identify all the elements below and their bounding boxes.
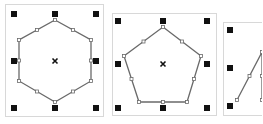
vertex-node-icon[interactable]	[261, 99, 263, 102]
vertex-node-icon[interactable]	[54, 101, 57, 104]
resize-handle-icon[interactable]	[115, 61, 121, 67]
midpoint-node-icon[interactable]	[248, 75, 251, 78]
resize-handle-icon[interactable]	[227, 65, 233, 71]
midpoint-node-icon[interactable]	[90, 59, 93, 62]
midpoint-node-icon[interactable]	[36, 29, 39, 32]
midpoint-node-icon[interactable]	[142, 40, 145, 43]
resize-handle-icon[interactable]	[11, 105, 17, 111]
midpoint-node-icon[interactable]	[193, 78, 196, 81]
shape-canvas	[0, 0, 262, 124]
midpoint-node-icon[interactable]	[36, 90, 39, 93]
vertex-node-icon[interactable]	[261, 51, 263, 54]
resize-handle-icon[interactable]	[115, 18, 121, 24]
vertex-node-icon[interactable]	[18, 80, 21, 83]
midpoint-node-icon[interactable]	[72, 90, 75, 93]
vertex-node-icon[interactable]	[123, 55, 126, 58]
resize-handle-icon[interactable]	[52, 11, 58, 17]
vertex-node-icon[interactable]	[90, 39, 93, 42]
midpoint-node-icon[interactable]	[18, 59, 21, 62]
resize-handle-icon[interactable]	[204, 61, 210, 67]
midpoint-node-icon[interactable]	[130, 78, 133, 81]
resize-handle-icon[interactable]	[160, 105, 166, 111]
midpoint-node-icon[interactable]	[181, 40, 184, 43]
resize-handle-icon[interactable]	[115, 105, 121, 111]
resize-handle-icon[interactable]	[227, 103, 233, 109]
resize-handle-icon[interactable]	[93, 58, 99, 64]
vertex-node-icon[interactable]	[236, 99, 239, 102]
resize-handle-icon[interactable]	[204, 18, 210, 24]
vertex-node-icon[interactable]	[18, 39, 21, 42]
vertex-node-icon[interactable]	[90, 80, 93, 83]
shape-overlay	[0, 0, 262, 124]
vertex-node-icon[interactable]	[186, 101, 189, 104]
resize-handle-icon[interactable]	[227, 27, 233, 33]
resize-handle-icon[interactable]	[204, 105, 210, 111]
vertex-node-icon[interactable]	[54, 19, 57, 22]
resize-handle-icon[interactable]	[11, 11, 17, 17]
resize-handle-icon[interactable]	[93, 11, 99, 17]
resize-handle-icon[interactable]	[93, 105, 99, 111]
center-x-icon[interactable]	[53, 59, 58, 64]
center-x-icon[interactable]	[161, 62, 166, 67]
vertex-node-icon[interactable]	[200, 55, 203, 58]
vertex-node-icon[interactable]	[138, 101, 141, 104]
vertex-node-icon[interactable]	[162, 26, 165, 29]
midpoint-node-icon[interactable]	[261, 75, 263, 78]
midpoint-node-icon[interactable]	[162, 101, 165, 104]
midpoint-node-icon[interactable]	[72, 29, 75, 32]
resize-handle-icon[interactable]	[52, 105, 58, 111]
resize-handle-icon[interactable]	[160, 18, 166, 24]
resize-handle-icon[interactable]	[11, 58, 17, 64]
